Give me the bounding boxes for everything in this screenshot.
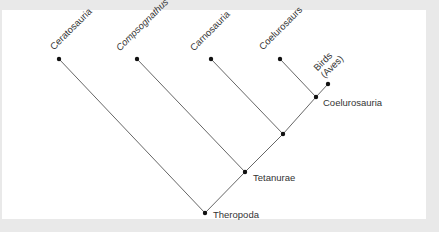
label-coelurosauria: Coelurosauria <box>323 98 382 108</box>
label-tetanurae: Tetanurae <box>253 173 295 183</box>
node-tetanurae <box>243 170 247 174</box>
node-birds <box>326 82 330 86</box>
node-ceratosauria <box>57 57 61 61</box>
node-carnosauria <box>209 57 213 61</box>
branch-coelurosauria-birds <box>316 84 328 97</box>
branch-unnamed-carnosauria <box>211 59 283 134</box>
node-compsognathus <box>135 57 139 61</box>
node-unnamed <box>281 132 285 136</box>
node-theropoda <box>203 211 207 215</box>
branch-tetanurae-unnamed <box>245 134 283 172</box>
node-coelurosaurs <box>278 57 282 61</box>
branch-theropoda-ceratosauria <box>59 59 205 213</box>
branch-theropoda-tetanurae <box>205 172 245 213</box>
branch-tetanurae-compsognathus <box>137 59 245 172</box>
branch-unnamed-coelurosauria <box>283 97 316 134</box>
label-theropoda: Theropoda <box>213 210 259 220</box>
node-coelurosauria <box>314 95 318 99</box>
